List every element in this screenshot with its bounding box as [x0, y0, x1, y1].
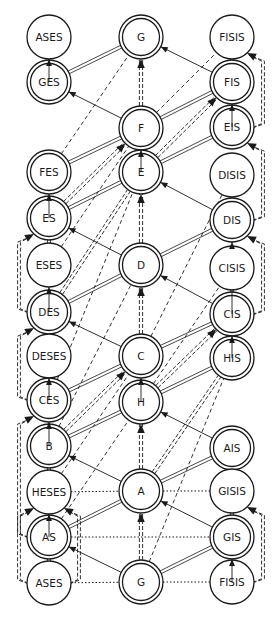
edge-heses-a	[71, 491, 119, 492]
node-a: A	[119, 469, 163, 513]
node-heses: HESES	[27, 470, 71, 514]
node-label: FES	[39, 166, 59, 178]
node-label: ASES	[35, 577, 62, 589]
edge-d-es	[69, 228, 122, 255]
arrowhead-icon	[116, 143, 125, 152]
node-dis: DIS	[210, 198, 254, 242]
arrowhead-icon	[24, 328, 34, 336]
node-g_top: G	[119, 15, 163, 59]
node-label: FIS	[224, 76, 240, 88]
node-label: ESES	[36, 259, 63, 271]
node-deses: DESES	[27, 334, 71, 378]
node-cisis: CISIS	[210, 246, 254, 290]
node-label: AIS	[224, 442, 241, 454]
node-ases_bot: ASES	[27, 561, 71, 605]
node-label: DIS	[223, 214, 241, 226]
node-label: FISIS	[219, 31, 245, 43]
edge-des-d	[68, 274, 122, 304]
arrowhead-icon	[137, 424, 145, 433]
edge-g_bot-gis	[160, 545, 213, 573]
edge-dis-e	[160, 182, 212, 209]
arrowhead-icon	[207, 97, 216, 106]
node-disis: DISIS	[210, 153, 254, 197]
edge-b-h	[68, 410, 122, 438]
node-ases_top: ASES	[27, 15, 71, 59]
node-label: D	[137, 259, 145, 271]
node-fes: FES	[27, 150, 71, 194]
node-label: F	[138, 122, 144, 134]
node-eses: ESES	[27, 243, 71, 287]
arrowhead-icon	[24, 508, 34, 516]
arrowhead-icon	[24, 416, 34, 424]
node-label: GIS	[223, 531, 241, 543]
node-label: ASES	[35, 31, 62, 43]
edge-ces-c	[68, 364, 122, 392]
edge-g_bot-as	[69, 547, 121, 573]
node-ais: AIS	[210, 426, 254, 470]
node-fis: FIS	[210, 60, 254, 104]
arrowhead-icon	[137, 194, 145, 203]
node-label: DISIS	[218, 169, 246, 181]
node-label: C	[137, 350, 144, 362]
edge-e-eis	[160, 135, 213, 163]
arrowhead-icon	[137, 59, 145, 68]
arrowhead-icon	[207, 329, 216, 338]
node-d: D	[119, 243, 163, 287]
edge-h-cis	[156, 328, 218, 388]
node-gis: GIS	[210, 515, 254, 559]
arrowhead-icon	[247, 507, 257, 514]
node-label: CISIS	[219, 262, 246, 274]
edge-d-dis	[160, 228, 213, 256]
edge-f-fis	[160, 91, 213, 120]
edge-a-b	[69, 456, 121, 482]
edge-heses-c	[61, 374, 128, 474]
edge-e-fis	[156, 96, 218, 157]
node-label: HESES	[32, 486, 67, 498]
edge-ases_bot-g_bot	[71, 582, 119, 583]
node-label: G	[137, 576, 145, 588]
edge-h-his	[160, 366, 213, 394]
node-gisis: GISIS	[210, 469, 254, 513]
node-label: DESES	[32, 350, 67, 362]
edge-ges-g_top	[68, 45, 122, 73]
arrowhead-icon	[247, 143, 257, 150]
edge-cis-d	[160, 275, 212, 303]
arrowhead-icon	[64, 508, 74, 516]
arrowhead-icon	[137, 287, 145, 296]
arrowhead-icon	[116, 371, 125, 380]
node-label: G	[137, 31, 145, 43]
node-fisis_top: FISIS	[210, 15, 254, 59]
node-c: C	[119, 334, 163, 378]
node-label: GISIS	[218, 485, 246, 497]
arrowhead-icon	[137, 513, 145, 522]
edge-c-des	[69, 321, 121, 346]
edge-fes-g_top	[61, 55, 128, 154]
node-g_bot: G	[119, 560, 163, 604]
edge-es-e	[68, 180, 122, 209]
arrowhead-icon	[247, 53, 257, 60]
edge-fis-g_top	[161, 47, 213, 72]
node-label: A	[137, 485, 145, 497]
arrowhead-icon	[247, 236, 257, 243]
arrowhead-icon	[24, 234, 34, 242]
node-f: F	[119, 106, 163, 150]
edge-fes-f	[68, 136, 122, 164]
note-network-diagram: ASESGESFESESESESDESDESESCESBHESESASASESG…	[0, 0, 278, 626]
